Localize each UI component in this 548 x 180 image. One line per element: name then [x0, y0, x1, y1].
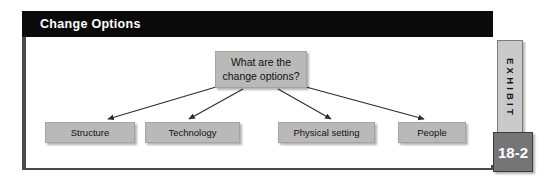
- node-root-question[interactable]: What are the change options?: [215, 51, 307, 88]
- node-people-label: People: [417, 127, 447, 139]
- node-physical-setting-label: Physical setting: [293, 127, 359, 139]
- exhibit-number-badge: 18-2: [493, 132, 533, 172]
- node-technology-label: Technology: [168, 127, 216, 139]
- node-structure[interactable]: Structure: [45, 122, 135, 143]
- node-structure-label: Structure: [71, 127, 110, 139]
- exhibit-tab-label: EXHIBIT: [505, 58, 516, 118]
- exhibit-number-label: 18-2: [498, 144, 528, 161]
- node-technology[interactable]: Technology: [145, 122, 240, 143]
- exhibit-tab-strip: EXHIBIT: [497, 40, 523, 135]
- exhibit-title: Change Options: [40, 17, 141, 31]
- node-root-question-label: What are the change options?: [222, 56, 299, 82]
- node-people[interactable]: People: [398, 122, 466, 143]
- exhibit-root: Change Options What are the change optio…: [0, 0, 548, 180]
- node-physical-setting[interactable]: Physical setting: [278, 122, 375, 143]
- exhibit-title-bar: Change Options: [22, 11, 493, 37]
